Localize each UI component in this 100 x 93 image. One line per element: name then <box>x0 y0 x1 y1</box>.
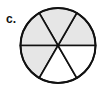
fraction-circle <box>0 0 100 93</box>
